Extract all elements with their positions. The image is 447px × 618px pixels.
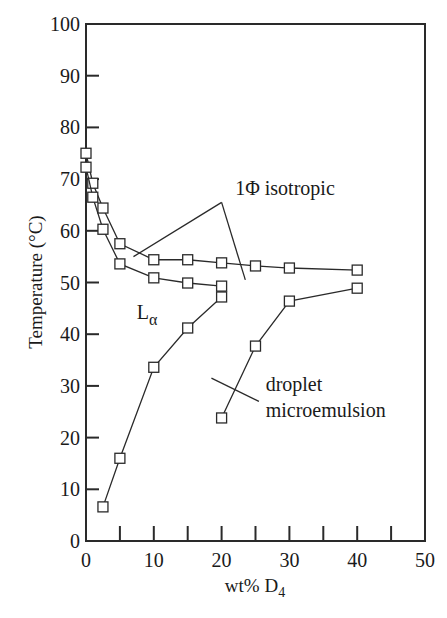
square-marker <box>217 258 227 268</box>
x-tick-label: 0 <box>81 549 91 571</box>
x-tick-label: 30 <box>279 549 299 571</box>
y-tick-label: 100 <box>50 13 80 35</box>
x-axis-label-main: wt% D <box>225 575 278 596</box>
plot-border <box>86 24 425 541</box>
square-marker <box>284 263 294 273</box>
x-tick-label: 40 <box>347 549 367 571</box>
y-tick-label: 50 <box>60 272 80 294</box>
x-tick-label: 10 <box>144 549 164 571</box>
square-marker <box>115 239 125 249</box>
square-marker <box>183 323 193 333</box>
y-tick-label: 90 <box>60 65 80 87</box>
square-marker <box>149 362 159 372</box>
square-marker <box>149 273 159 283</box>
annotation-label: Lα <box>137 301 158 328</box>
square-marker <box>352 283 362 293</box>
x-tick-label: 50 <box>415 549 435 571</box>
square-marker <box>284 296 294 306</box>
series-path <box>86 153 357 270</box>
y-tick-label: 10 <box>60 478 80 500</box>
annotations: 1Φ isotropicLαdropletmicroemulsion <box>133 177 385 421</box>
annotation-label: microemulsion <box>266 399 386 421</box>
square-marker <box>88 192 98 202</box>
square-marker <box>115 453 125 463</box>
y-tick-label: 20 <box>60 427 80 449</box>
square-marker <box>98 502 108 512</box>
square-marker <box>352 265 362 275</box>
plot-frame <box>86 24 425 541</box>
square-marker <box>251 261 261 271</box>
y-axis-label: Temperature (°C) <box>25 215 47 348</box>
annotation-label: 1Φ isotropic <box>235 177 335 200</box>
y-tick-label: 80 <box>60 116 80 138</box>
x-tick-label: 20 <box>212 549 232 571</box>
series-line <box>98 292 227 512</box>
square-marker <box>149 255 159 265</box>
square-marker <box>183 255 193 265</box>
y-tick-label: 40 <box>60 323 80 345</box>
phase-diagram-chart: 010203040506070809010001020304050 1Φ iso… <box>0 0 447 618</box>
x-axis-label: wt% D4 <box>225 575 285 600</box>
x-axis-label-subscript: 4 <box>278 585 285 600</box>
square-marker <box>217 281 227 291</box>
annotation-leader-line <box>211 378 258 401</box>
series-line <box>81 148 362 275</box>
y-tick-label: 60 <box>60 220 80 242</box>
square-marker <box>251 341 261 351</box>
tick-labels: 010203040506070809010001020304050 <box>50 13 435 571</box>
square-marker <box>183 278 193 288</box>
series-line <box>81 162 227 291</box>
square-marker <box>98 224 108 234</box>
square-marker <box>217 292 227 302</box>
y-tick-label: 0 <box>70 530 80 552</box>
axis-ticks <box>86 76 391 541</box>
y-tick-label: 30 <box>60 375 80 397</box>
annotation-label: droplet <box>266 373 323 396</box>
y-tick-label: 70 <box>60 168 80 190</box>
series-path <box>103 297 222 507</box>
square-marker <box>98 203 108 213</box>
square-marker <box>217 413 227 423</box>
square-marker <box>115 259 125 269</box>
square-marker <box>81 162 91 172</box>
square-marker <box>81 148 91 158</box>
annotation-leader-line <box>133 202 221 256</box>
